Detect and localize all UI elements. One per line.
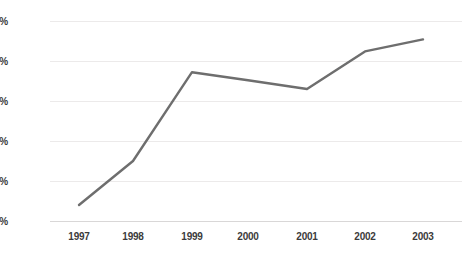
- x-axis-tick-label: 2001: [296, 231, 317, 242]
- x-axis-tick-label: 1999: [181, 231, 202, 242]
- x-axis-tick-label: 2000: [237, 231, 258, 242]
- x-axis-tick-label: 1998: [122, 231, 143, 242]
- plot-area: [50, 21, 462, 221]
- series-layer: [50, 21, 462, 221]
- y-axis-tick-label: 2,0%: [0, 56, 8, 67]
- y-axis-tick-label: 2,5%: [0, 16, 8, 27]
- x-axis-tick-label: 2003: [412, 231, 433, 242]
- x-axis-tick-label: 2002: [354, 231, 375, 242]
- line-chart: 0,0%0,5%1,0%1,5%2,0%2,5% 199719981999200…: [0, 0, 470, 259]
- x-axis-tick-label: 1997: [68, 231, 89, 242]
- y-axis-tick-label: 0,5%: [0, 176, 8, 187]
- y-axis-tick-label: 0,0%: [0, 216, 8, 227]
- series-line-1: [79, 39, 423, 205]
- y-axis-tick-label: 1,5%: [0, 96, 8, 107]
- y-axis-tick-label: 1,0%: [0, 136, 8, 147]
- x-axis-baseline: [50, 221, 462, 222]
